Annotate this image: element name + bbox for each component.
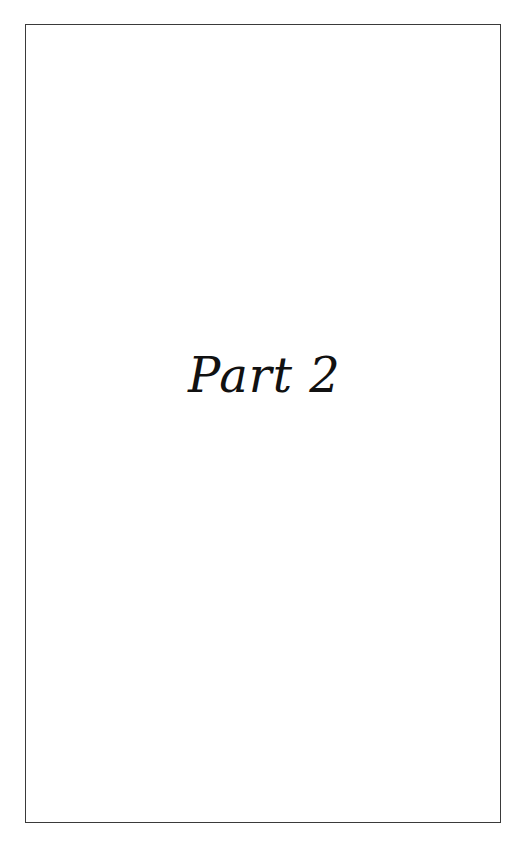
page-border-frame <box>25 24 501 823</box>
part-title: Part 2 <box>0 340 529 410</box>
